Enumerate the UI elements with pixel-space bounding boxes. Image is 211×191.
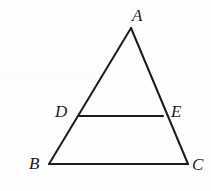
- vertex-label-e: E: [171, 103, 181, 120]
- vertex-label-b: B: [29, 155, 39, 172]
- triangle-outline: [49, 28, 188, 164]
- segment-ac: [131, 28, 188, 164]
- geometry-figure: A B C D E: [0, 0, 211, 191]
- vertex-label-d: D: [55, 103, 67, 120]
- segment-ab: [49, 28, 131, 164]
- vertex-label-c: C: [192, 156, 203, 173]
- vertex-label-a: A: [132, 7, 142, 24]
